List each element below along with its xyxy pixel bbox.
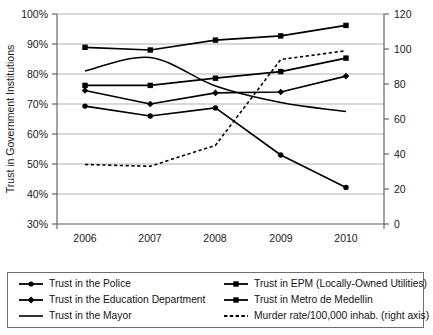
legend-item-metro: Trust in Metro de Medellin	[213, 292, 423, 308]
legend-item-police: Trust in the Police	[8, 276, 213, 292]
y2-tick-label: 100	[394, 43, 412, 55]
y-tick-label: 80%	[27, 68, 48, 80]
y2-tick-label: 80	[394, 78, 406, 90]
legend-swatch-dashed-line-icon	[223, 310, 249, 322]
legend-swatch-square-icon	[223, 278, 249, 290]
legend-label: Trust in the Mayor	[49, 310, 132, 322]
data-point-marker	[82, 83, 87, 88]
data-point-marker	[278, 152, 283, 157]
legend-swatch-plain-line-icon	[18, 310, 44, 322]
data-point-marker	[212, 90, 219, 97]
series-layer	[82, 23, 350, 190]
data-point-marker	[147, 101, 154, 108]
y-tick-label: 90%	[27, 38, 48, 50]
y-tick-label: 60%	[27, 128, 48, 140]
series-trust-in-epm-locally-owned-utilities	[82, 23, 348, 53]
y2-tick-label: 40	[394, 148, 406, 160]
chart-container: 100% 90% 80% 70% 60% 50% 40% 30% Trust i…	[0, 0, 433, 335]
x-axis	[57, 224, 384, 229]
legend-label: Murder rate/100,000 inhab. (right axis)	[254, 310, 429, 322]
x-tick-label: 2008	[203, 232, 227, 244]
legend-label: Trust in the Education Department	[49, 294, 205, 306]
y2-tick-label: 0	[394, 218, 400, 230]
legend-item-education-department: Trust in the Education Department	[8, 292, 213, 308]
gridlines	[57, 14, 384, 194]
data-point-marker	[82, 45, 87, 50]
y-tick-label: 30%	[27, 218, 48, 230]
y2-tick-label: 20	[394, 183, 406, 195]
legend-item-epm: Trust in EPM (Locally-Owned Utilities)	[213, 276, 423, 292]
legend-swatch-diamond-icon	[18, 294, 44, 306]
legend-label: Trust in EPM (Locally-Owned Utilities)	[254, 278, 427, 290]
data-point-marker	[82, 103, 87, 108]
x-tick-label: 2007	[138, 232, 162, 244]
left-axis	[52, 14, 57, 224]
data-point-marker	[278, 33, 283, 38]
y-axis-title: Trust in Government Institutions	[4, 45, 16, 193]
y2-tick-label: 120	[394, 8, 412, 20]
right-axis	[384, 14, 389, 224]
data-point-marker	[343, 23, 348, 28]
legend-item-murder-rate: Murder rate/100,000 inhab. (right axis)	[213, 308, 423, 324]
data-point-marker	[213, 105, 218, 110]
legend-swatch-circle-icon	[18, 278, 44, 290]
y-tick-label: 50%	[27, 158, 48, 170]
data-point-marker	[213, 76, 218, 81]
plot-area: 100% 90% 80% 70% 60% 50% 40% 30% Trust i…	[0, 0, 433, 268]
legend-item-mayor: Trust in the Mayor	[8, 308, 213, 324]
data-point-marker	[343, 185, 348, 190]
x-tick-label: 2006	[73, 232, 97, 244]
y-tick-label: 70%	[27, 98, 48, 110]
legend-swatch-square-icon	[223, 294, 249, 306]
x-tick-label: 2010	[334, 232, 358, 244]
legend-label: Trust in the Police	[49, 278, 131, 290]
series-trust-in-the-police	[82, 103, 348, 190]
y2-tick-label: 60	[394, 113, 406, 125]
data-point-marker	[277, 89, 284, 96]
data-point-marker	[148, 113, 153, 118]
y-tick-label: 40%	[27, 188, 48, 200]
data-point-marker	[82, 87, 89, 94]
data-point-marker	[148, 83, 153, 88]
y-tick-label: 100%	[21, 8, 48, 20]
data-point-marker	[343, 55, 348, 60]
chart-legend: Trust in the Police Trust in EPM (Locall…	[7, 272, 424, 328]
legend-label: Trust in Metro de Medellin	[254, 294, 373, 306]
data-point-marker	[148, 47, 153, 52]
data-point-marker	[213, 37, 218, 42]
data-point-marker	[278, 69, 283, 74]
chart-svg: 100% 90% 80% 70% 60% 50% 40% 30% Trust i…	[0, 0, 433, 268]
x-tick-label: 2009	[269, 232, 293, 244]
